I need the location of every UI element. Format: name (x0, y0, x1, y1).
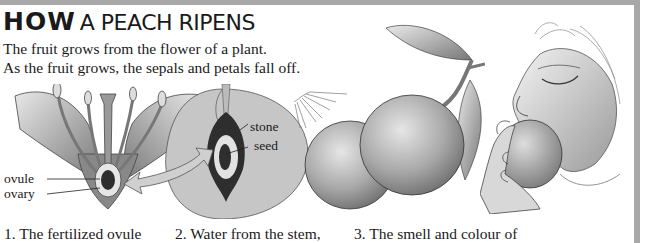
caption-step-1: 1. The fertilized ovule (4, 225, 141, 243)
label-ovary: ovary (4, 187, 35, 201)
intro-line-1: The fruit grows from the flower of a pla… (3, 39, 300, 58)
caption-step-3: 3. The smell and colour of (354, 225, 517, 243)
peaches-on-branch-illustration (300, 20, 485, 210)
label-stone: stone (250, 120, 279, 134)
label-ovule: ovule (4, 172, 34, 186)
child-eating-peach-illustration (480, 14, 630, 214)
right-margin (640, 0, 645, 243)
intro-text: The fruit grows from the flower of a pla… (3, 39, 300, 77)
top-border (0, 0, 645, 5)
peach-cross-section-illustration (118, 84, 318, 219)
label-seed: seed (254, 139, 278, 153)
intro-line-2: As the fruit grows, the sepals and petal… (3, 58, 300, 77)
page-title: HOWA PEACH RIPENS (3, 9, 255, 36)
title-bold: HOW (3, 7, 76, 36)
caption-step-2: 2. Water from the stem, (175, 225, 321, 243)
title-rest: A PEACH RIPENS (80, 10, 255, 35)
